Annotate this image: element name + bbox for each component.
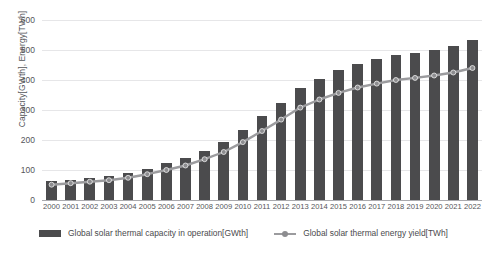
line-marker-2005 [145,172,150,177]
x-tick-label-2003: 2003 [99,202,118,211]
line-marker-icon [274,230,296,237]
y-tick-label-0: 0 [1,200,35,201]
y-tick-label-500: 500 [1,50,35,51]
legend-label-energy-yield: Global solar thermal energy yield[TWh] [303,228,448,238]
line-marker-2019 [413,75,418,80]
x-tick-label-2022: 2022 [463,202,482,211]
line-series [42,20,482,200]
y-tick-label-200: 200 [1,140,35,141]
legend-item-capacity[interactable]: Global solar thermal capacity in operati… [39,228,248,238]
bar-swatch-icon [39,230,61,237]
x-tick-label-2013: 2013 [291,202,310,211]
line-marker-2001 [68,181,73,186]
y-tick-label-600: 600 [1,20,35,21]
line-marker-2011 [260,129,265,134]
line-markers [49,66,475,188]
x-tick-label-2020: 2020 [425,202,444,211]
x-tick-label-2009: 2009 [214,202,233,211]
line-marker-2021 [451,70,456,75]
line-marker-2000 [49,182,54,187]
line-marker-2022 [470,66,475,71]
line-marker-2018 [393,78,398,83]
x-tick-label-2004: 2004 [119,202,138,211]
line-marker-2014 [317,97,322,102]
line-marker-2012 [279,117,284,122]
line-marker-2008 [202,157,207,162]
line-marker-2020 [432,73,437,78]
x-tick-label-2000: 2000 [42,202,61,211]
plot-area: 6005004003002001000 [42,20,482,200]
x-tick-label-2010: 2010 [233,202,252,211]
solar-thermal-chart: Capacity[GWth], Energy[TWh] 600500400300… [0,0,487,257]
line-marker-2017 [374,81,379,86]
x-tick-label-2016: 2016 [348,202,367,211]
line-marker-2010 [240,140,245,145]
x-tick-label-2018: 2018 [386,202,405,211]
legend-label-capacity: Global solar thermal capacity in operati… [68,228,248,238]
line-marker-2007 [183,163,188,168]
line-marker-2009 [221,150,226,155]
x-tick-label-2007: 2007 [176,202,195,211]
x-tick-label-2001: 2001 [61,202,80,211]
y-tick-label-300: 300 [1,110,35,111]
line-marker-2013 [298,105,303,110]
x-tick-label-2006: 2006 [157,202,176,211]
x-tick-label-2005: 2005 [138,202,157,211]
x-tick-label-2021: 2021 [444,202,463,211]
x-tick-label-2011: 2011 [252,202,271,211]
x-axis-ticks: 2000200120022003200420052006200720082009… [42,202,482,216]
line-marker-2015 [336,90,341,95]
line-marker-2002 [87,179,92,184]
y-tick-label-100: 100 [1,170,35,171]
chart-legend: Global solar thermal capacity in operati… [0,228,487,238]
x-tick-label-2017: 2017 [367,202,386,211]
line-marker-2003 [106,178,111,183]
line-marker-2006 [164,168,169,173]
line-marker-2016 [355,85,360,90]
x-tick-label-2014: 2014 [310,202,329,211]
y-tick-label-400: 400 [1,80,35,81]
x-tick-label-2012: 2012 [272,202,291,211]
legend-item-energy-yield[interactable]: Global solar thermal energy yield[TWh] [274,228,448,238]
line-path [52,68,473,185]
gridline-0 [42,200,482,201]
x-tick-label-2008: 2008 [195,202,214,211]
line-marker-2004 [126,175,131,180]
x-tick-label-2019: 2019 [405,202,424,211]
x-tick-label-2015: 2015 [329,202,348,211]
x-tick-label-2002: 2002 [80,202,99,211]
